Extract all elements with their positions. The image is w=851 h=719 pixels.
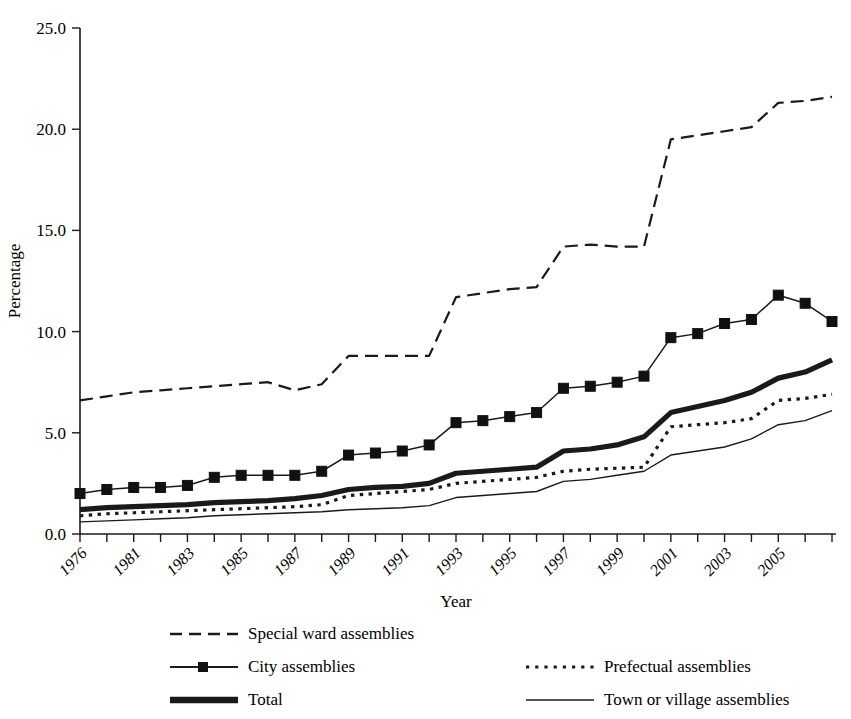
legend-item-prefectual-assemblies: Prefectual assemblies	[524, 650, 789, 683]
data-point-marker-city-assemblies	[344, 450, 354, 460]
series-line-special-ward-assemblies	[80, 97, 832, 401]
data-point-marker-city-assemblies	[102, 484, 112, 494]
legend-label-city-assemblies: City assemblies	[248, 657, 355, 677]
data-point-marker-city-assemblies	[209, 472, 219, 482]
data-point-marker-city-assemblies	[317, 466, 327, 476]
legend-item-city-assemblies: City assemblies	[168, 650, 414, 683]
y-tick-label: 15.0	[36, 221, 66, 240]
data-point-marker-city-assemblies	[75, 489, 85, 499]
percentage-by-year-line-chart: 0.05.010.015.020.025.0197619811983198519…	[0, 0, 851, 617]
data-point-marker-city-assemblies	[451, 418, 461, 428]
x-tick-label: 1981	[109, 544, 144, 579]
x-tick-label: 1997	[539, 543, 574, 578]
data-point-marker-city-assemblies	[827, 316, 837, 326]
line-with-square-marker-swatch	[168, 658, 240, 676]
chart-figure: 0.05.010.015.020.025.0197619811983198519…	[0, 0, 851, 719]
x-tick-label: 1989	[324, 544, 359, 579]
data-point-marker-city-assemblies	[720, 319, 730, 329]
data-point-marker-city-assemblies	[478, 416, 488, 426]
legend-item-total: Total	[168, 683, 414, 716]
thick-line-swatch	[168, 691, 240, 709]
data-point-marker-city-assemblies	[156, 482, 166, 492]
x-tick-label: 1991	[378, 544, 413, 579]
x-tick-label: 1995	[485, 544, 520, 579]
x-tick-label: 1983	[163, 544, 198, 579]
data-point-marker-city-assemblies	[505, 412, 515, 422]
legend-label-town-or-village-assemblies: Town or village assemblies	[604, 690, 789, 710]
legend-column-right: Prefectual assemblies Town or village as…	[524, 617, 789, 716]
data-point-marker-city-assemblies	[585, 381, 595, 391]
legend-label-total: Total	[248, 690, 283, 710]
data-point-marker-city-assemblies	[182, 480, 192, 490]
legend-label-prefectual-assemblies: Prefectual assemblies	[604, 657, 751, 677]
dashed-line-swatch	[168, 625, 240, 643]
x-tick-label: 1985	[217, 544, 252, 579]
data-point-marker-city-assemblies	[129, 482, 139, 492]
data-point-marker-city-assemblies	[424, 440, 434, 450]
legend-column-left: Special ward assemblies City assemblies …	[168, 617, 414, 716]
data-point-marker-city-assemblies	[612, 377, 622, 387]
thin-line-swatch	[524, 691, 596, 709]
chart-legend: Special ward assemblies City assemblies …	[0, 617, 851, 719]
legend-item-town-or-village-assemblies: Town or village assemblies	[524, 683, 789, 716]
data-point-marker-city-assemblies	[397, 446, 407, 456]
data-point-marker-city-assemblies	[370, 448, 380, 458]
legend-item-special-ward-assemblies: Special ward assemblies	[168, 617, 414, 650]
x-axis-title: Year	[440, 592, 472, 611]
x-tick-label: 1987	[270, 543, 305, 578]
y-axis-title: Percentage	[5, 244, 24, 319]
x-tick-label: 1993	[431, 544, 466, 579]
x-tick-label: 1976	[55, 544, 90, 579]
data-point-marker-city-assemblies	[558, 383, 568, 393]
legend-label-special-ward-assemblies: Special ward assemblies	[248, 624, 414, 644]
y-tick-label: 0.0	[45, 525, 66, 544]
data-point-marker-city-assemblies	[236, 470, 246, 480]
y-tick-label: 5.0	[45, 424, 66, 443]
data-point-marker-city-assemblies	[532, 408, 542, 418]
x-tick-label: 2003	[700, 544, 735, 579]
x-tick-label: 2001	[646, 544, 681, 579]
data-point-marker-city-assemblies	[666, 333, 676, 343]
y-tick-label: 20.0	[36, 120, 66, 139]
y-tick-label: 10.0	[36, 323, 66, 342]
data-point-marker-city-assemblies	[773, 290, 783, 300]
data-point-marker-city-assemblies	[800, 298, 810, 308]
data-point-marker-city-assemblies	[693, 329, 703, 339]
data-point-marker-city-assemblies	[639, 371, 649, 381]
y-tick-label: 25.0	[36, 19, 66, 38]
data-point-marker-city-assemblies	[290, 470, 300, 480]
dotted-line-swatch	[524, 658, 596, 676]
x-tick-label: 1999	[593, 544, 628, 579]
data-point-marker-city-assemblies	[263, 470, 273, 480]
x-tick-label: 2005	[754, 544, 789, 579]
data-point-marker-city-assemblies	[746, 314, 756, 324]
